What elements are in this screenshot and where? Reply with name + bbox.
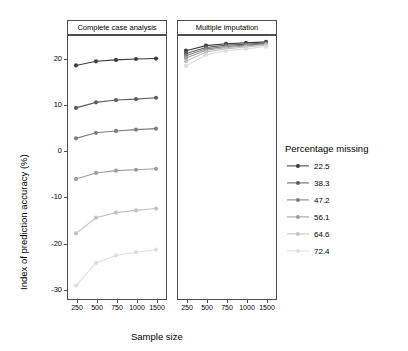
panel-strip-label: Multiple imputation — [196, 23, 259, 32]
series-point — [94, 59, 98, 63]
series-point — [134, 97, 138, 101]
legend-item-64.6[interactable]: 64.6 — [287, 228, 330, 240]
series-point — [94, 216, 98, 220]
series-point — [134, 57, 138, 61]
panel-1-plot-area — [68, 36, 166, 299]
series-point — [114, 211, 118, 215]
series-point — [94, 261, 98, 265]
series-point — [154, 127, 158, 131]
series-point — [74, 283, 78, 287]
legend-key-icon — [287, 211, 309, 223]
y-tick-label: -20 — [38, 239, 62, 248]
y-tick-label: 0 — [38, 146, 62, 155]
legend-item-label: 56.1 — [314, 213, 330, 222]
series-point — [154, 96, 158, 100]
x-tick-mark — [137, 300, 138, 303]
series-point — [114, 169, 118, 173]
x-axis-title: Sample size — [131, 331, 183, 342]
legend-item-label: 64.6 — [314, 230, 330, 239]
series-point — [74, 106, 78, 110]
legend-key-icon — [287, 194, 309, 206]
series-point — [264, 44, 268, 48]
series-point — [114, 58, 118, 62]
series-point — [74, 177, 78, 181]
series-point — [114, 253, 118, 257]
legend-item-label: 22.5 — [314, 162, 330, 171]
legend-item-label: 38.3 — [314, 179, 330, 188]
legend-item-38.3[interactable]: 38.3 — [287, 177, 330, 189]
legend-item-22.5[interactable]: 22.5 — [287, 160, 330, 172]
x-tick-label: 1500 — [255, 304, 279, 311]
series-point — [94, 131, 98, 135]
series-point — [154, 247, 158, 251]
y-tick-mark — [64, 151, 67, 152]
legend-item-56.1[interactable]: 56.1 — [287, 211, 330, 223]
series-point — [94, 171, 98, 175]
y-tick-label: -30 — [38, 285, 62, 294]
x-tick-mark — [117, 300, 118, 303]
y-tick-mark — [64, 197, 67, 198]
series-point — [74, 231, 78, 235]
y-tick-label: 20 — [38, 54, 62, 63]
panel-strip-label: Complete case analysis — [77, 23, 156, 32]
legend-key-icon — [287, 177, 309, 189]
x-tick-mark — [227, 300, 228, 303]
legend-key-icon — [287, 228, 309, 240]
series-point — [204, 53, 208, 57]
series-point — [154, 206, 158, 210]
series-point — [94, 100, 98, 104]
legend-item-72.4[interactable]: 72.4 — [287, 245, 330, 257]
series-point — [154, 167, 158, 171]
series-point — [134, 208, 138, 212]
x-tick-mark — [97, 300, 98, 303]
x-tick-mark — [157, 300, 158, 303]
legend-title: Percentage missing — [285, 143, 368, 154]
series-point — [134, 127, 138, 131]
series-point — [134, 250, 138, 254]
x-tick-label: 1500 — [145, 304, 169, 311]
y-tick-label: -10 — [38, 192, 62, 201]
panel-2-plot-area — [178, 36, 276, 299]
legend-item-label: 47.2 — [314, 196, 330, 205]
series-point — [134, 168, 138, 172]
legend-key-icon — [287, 160, 309, 172]
y-tick-mark — [64, 244, 67, 245]
y-axis-title: Index of prediction accuracy (%) — [18, 154, 29, 290]
series-point — [244, 47, 248, 51]
legend-item-47.2[interactable]: 47.2 — [287, 194, 330, 206]
y-tick-mark — [64, 105, 67, 106]
x-tick-mark — [267, 300, 268, 303]
panel-strip-multiple-imputation: Multiple imputation — [177, 20, 277, 35]
series-point — [224, 49, 228, 53]
x-tick-mark — [247, 300, 248, 303]
y-tick-label: 10 — [38, 100, 62, 109]
x-tick-mark — [207, 300, 208, 303]
chart-root: Index of prediction accuracy (%) Sample … — [0, 0, 408, 351]
series-point — [114, 129, 118, 133]
series-point — [184, 59, 188, 63]
y-tick-mark — [64, 59, 67, 60]
y-tick-mark — [64, 290, 67, 291]
panel-strip-complete-case: Complete case analysis — [67, 20, 167, 35]
legend-key-icon — [287, 245, 309, 257]
series-point — [184, 64, 188, 68]
x-tick-mark — [77, 300, 78, 303]
series-point — [114, 98, 118, 102]
series-point — [74, 136, 78, 140]
series-point — [154, 56, 158, 60]
x-tick-mark — [187, 300, 188, 303]
legend-item-label: 72.4 — [314, 247, 330, 256]
series-point — [74, 63, 78, 67]
